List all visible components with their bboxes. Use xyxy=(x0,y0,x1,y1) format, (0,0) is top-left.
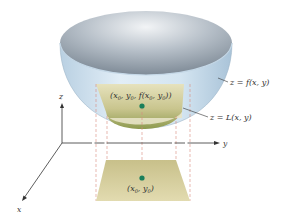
y-axis-label: y xyxy=(222,139,228,148)
base-point-label: (x0, y0) xyxy=(127,184,154,194)
z-axis-arrow-icon xyxy=(60,103,64,108)
x-axis-arrow-icon xyxy=(22,196,27,202)
base-point xyxy=(139,175,144,180)
domain-region xyxy=(96,160,190,201)
x-axis xyxy=(24,143,62,198)
plane-label: z = L(x, y) xyxy=(209,113,252,122)
tangent-plane-diagram: z y x z = f(x, y) z = L(x, y) (x0, y0, f… xyxy=(0,0,283,224)
x-axis-label: x xyxy=(17,205,22,214)
z-axis-label: z xyxy=(58,92,63,101)
surface-label: z = f(x, y) xyxy=(229,78,269,87)
point-on-surface xyxy=(139,103,144,108)
y-axis-arrow-icon xyxy=(214,141,220,145)
